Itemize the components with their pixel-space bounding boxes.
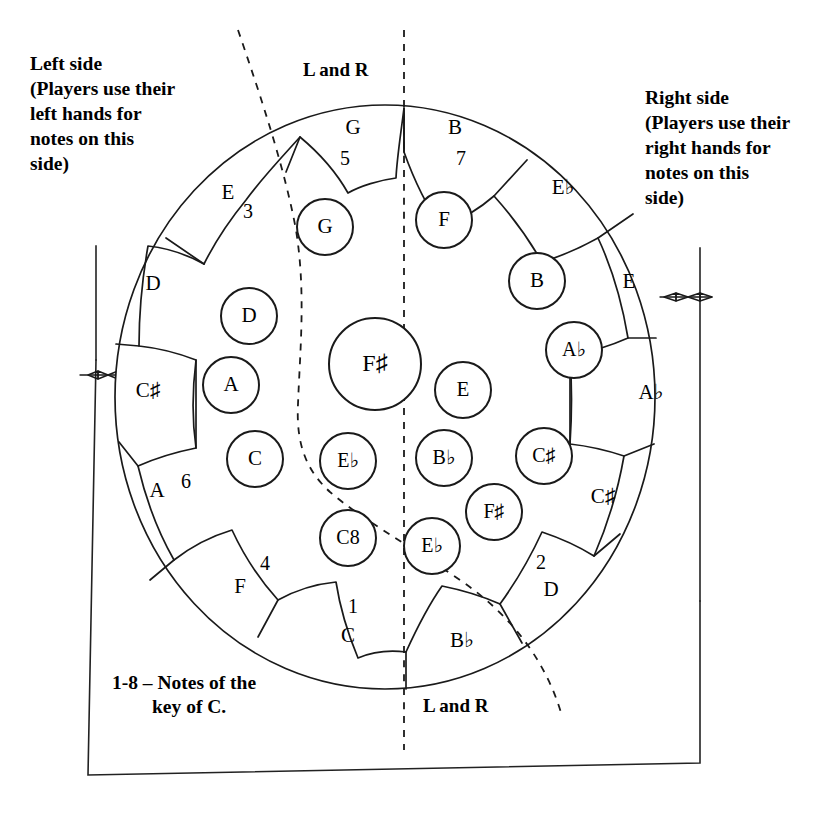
- button-label: B♭: [433, 446, 456, 468]
- annotation-left-side: Left side (Players use their left hands …: [30, 53, 175, 175]
- ring-note-13: E: [222, 180, 235, 204]
- button-F[interactable]: F: [416, 192, 472, 248]
- button-label: B: [530, 268, 544, 292]
- button-Fsharp-center[interactable]: F♯: [329, 318, 421, 410]
- annotation-right-side: Right side (Players use their right hand…: [645, 87, 790, 209]
- bottom-divider-label: L and R: [423, 695, 489, 716]
- right-side-line-2: right hands for: [645, 137, 771, 158]
- legend-note: 1-8 – Notes of the key of C.: [112, 672, 256, 717]
- button-label: E♭: [421, 534, 443, 556]
- button-label: C♯: [532, 444, 555, 466]
- button-label: C: [248, 446, 262, 470]
- button-E[interactable]: E: [435, 362, 491, 418]
- left-side-line-4: side): [30, 153, 69, 175]
- ring-degree-1: 7: [456, 147, 466, 169]
- ring-note-6: D: [543, 577, 558, 601]
- button-label: F♯: [483, 500, 504, 522]
- left-side-line-3: notes on this: [30, 128, 134, 149]
- ring-note-3: E: [623, 269, 636, 293]
- ring-degree-8: 1: [348, 595, 358, 617]
- button-Fsharp-low[interactable]: F♯: [466, 484, 522, 540]
- ring-degree-10: 6: [181, 470, 191, 492]
- ring-note-7: B♭: [450, 628, 474, 652]
- ring-note-0: G: [345, 115, 360, 139]
- button-G[interactable]: G: [297, 199, 353, 255]
- button-label: G: [317, 214, 332, 238]
- right-side-line-0: Right side: [645, 87, 729, 108]
- ring-note-10: A: [149, 478, 165, 502]
- ring-note-4: A♭: [638, 380, 663, 404]
- top-divider-label: L and R: [303, 59, 369, 80]
- button-Eb-left[interactable]: E♭: [320, 433, 376, 489]
- ring-degree-0: 5: [340, 147, 350, 169]
- right-side-line-3: notes on this: [645, 162, 749, 183]
- right-side-line-4: side): [645, 187, 684, 209]
- ring-degree-6: 2: [536, 551, 546, 573]
- concertina-layout-svg: G 5 B 7 E♭ E A♭ C♯ D 2 B♭ C 1 F 4 A 6 C♯…: [0, 0, 826, 815]
- left-side-line-0: Left side: [30, 53, 102, 74]
- ring-note-9: F: [234, 574, 246, 598]
- button-C8[interactable]: C8: [320, 510, 376, 566]
- left-side-line-1: (Players use their: [30, 78, 175, 100]
- ring-note-2: E♭: [552, 175, 575, 199]
- button-label: A: [223, 372, 239, 396]
- button-label: F: [438, 207, 450, 231]
- button-Ab[interactable]: A♭: [546, 322, 602, 378]
- dimension-marker-right: [660, 293, 712, 301]
- legend-line-1: key of C.: [152, 696, 226, 717]
- ring-note-12: D: [145, 271, 160, 295]
- ring-degree-9: 4: [260, 552, 270, 574]
- button-A[interactable]: A: [203, 357, 259, 413]
- button-B[interactable]: B: [509, 253, 565, 309]
- button-Csharp[interactable]: C♯: [516, 428, 572, 484]
- button-label: E: [457, 377, 470, 401]
- right-side-line-1: (Players use their: [645, 112, 790, 134]
- button-D[interactable]: D: [221, 288, 277, 344]
- button-Eb-low[interactable]: E♭: [404, 518, 460, 574]
- ring-note-5: C♯: [591, 484, 616, 508]
- ring-note-11: C♯: [136, 378, 161, 402]
- legend-line-0: 1-8 – Notes of the: [112, 672, 256, 693]
- button-label: D: [241, 303, 256, 327]
- diagram-canvas: G 5 B 7 E♭ E A♭ C♯ D 2 B♭ C 1 F 4 A 6 C♯…: [0, 0, 826, 815]
- button-label: F♯: [362, 350, 387, 376]
- left-side-line-2: left hands for: [30, 103, 142, 124]
- button-label: A♭: [562, 338, 586, 360]
- ring-note-8: C: [341, 623, 355, 647]
- ring-degree-13: 3: [243, 200, 253, 222]
- button-Bb[interactable]: B♭: [416, 430, 472, 486]
- button-label: C8: [336, 526, 359, 548]
- button-C[interactable]: C: [227, 431, 283, 487]
- button-label: E♭: [337, 449, 359, 471]
- ring-note-1: B: [448, 115, 462, 139]
